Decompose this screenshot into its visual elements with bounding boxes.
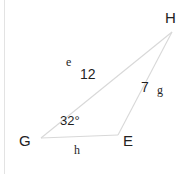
vertex-label-h: H — [165, 10, 176, 25]
side-h-line — [41, 135, 118, 138]
side-measure-g: 7 — [141, 80, 149, 94]
angle-label-g: 32° — [60, 114, 80, 127]
side-label-g: g — [157, 84, 163, 96]
triangle-diagram: G E H e 12 7 g h 32° — [0, 0, 193, 174]
side-measure-e: 12 — [80, 67, 96, 81]
vertex-label-g: G — [19, 133, 31, 148]
side-label-e: e — [66, 56, 71, 68]
vertex-label-e: E — [123, 133, 133, 148]
side-label-h: h — [74, 144, 80, 156]
